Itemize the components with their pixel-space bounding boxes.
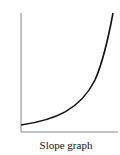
x-axis-label: Slope graph	[0, 139, 120, 151]
slope-curve	[21, 13, 113, 125]
slope-graph-chart	[0, 0, 120, 155]
